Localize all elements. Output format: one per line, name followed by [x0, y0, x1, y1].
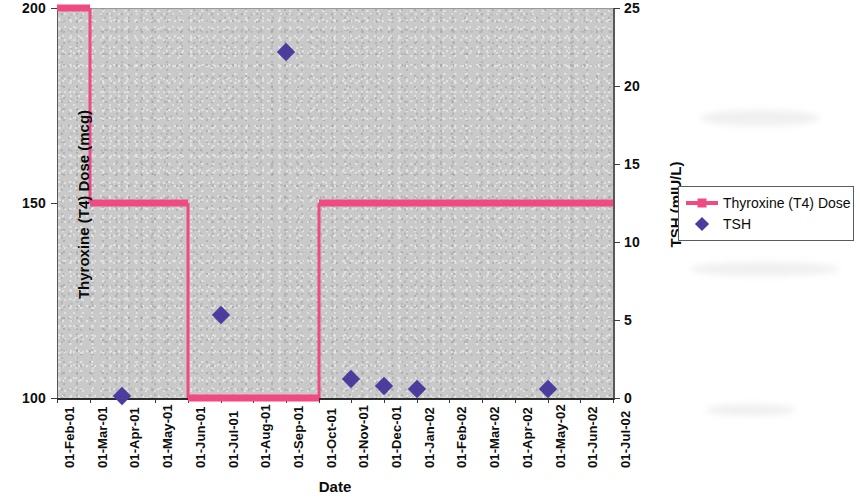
x-tick-label: 01-Jun-02 — [585, 406, 600, 468]
dose-line-segment — [90, 200, 188, 207]
x-tick-label: 01-Sep-01 — [291, 406, 306, 468]
secondary-y-tick-mark — [614, 242, 620, 243]
scan-artifact — [690, 262, 840, 276]
y-axis-title: Thyroxine (T4) Dose (mcg) — [75, 40, 92, 370]
x-tick-label: 01-Jan-02 — [422, 407, 437, 468]
dose-line-segment — [188, 395, 319, 402]
y-tick-label: 100 — [0, 390, 46, 406]
secondary-y-tick-label: 5 — [624, 312, 632, 328]
x-tick-label: 01-Aug-01 — [258, 404, 273, 468]
x-tick-label: 01-Mar-01 — [95, 406, 110, 468]
x-tick-label: 01-Mar-02 — [487, 406, 502, 468]
y-tick-label: 200 — [0, 0, 46, 16]
secondary-y-tick-label: 25 — [624, 0, 640, 16]
dose-line-segment — [57, 5, 90, 12]
legend-line-square-icon — [685, 195, 719, 211]
x-tick-label: 01-Feb-02 — [454, 406, 469, 468]
y-axis-line — [57, 8, 58, 398]
chart-legend: Thyroxine (T4) Dose TSH — [678, 186, 854, 241]
scan-artifact — [706, 404, 796, 416]
x-tick-label: 01-May-01 — [160, 404, 175, 468]
secondary-y-axis-line — [613, 8, 614, 398]
x-tick-label: 01-Jul-02 — [618, 411, 633, 468]
y-tick-label: 150 — [0, 195, 46, 211]
legend-label-thyroxine: Thyroxine (T4) Dose — [723, 195, 851, 211]
secondary-y-tick-label: 0 — [624, 390, 632, 406]
secondary-y-tick-mark — [614, 8, 620, 9]
secondary-y-tick-mark — [614, 86, 620, 87]
dose-line-segment — [186, 203, 189, 398]
x-tick-label: 01-Apr-01 — [127, 407, 142, 468]
scan-artifact — [700, 110, 820, 126]
legend-item-thyroxine: Thyroxine (T4) Dose — [685, 192, 847, 213]
x-tick-label: 01-Oct-01 — [324, 408, 339, 468]
secondary-y-tick-mark — [614, 398, 620, 399]
legend-diamond-icon — [685, 216, 719, 232]
dose-line-segment — [317, 203, 320, 398]
x-axis-title: Date — [57, 478, 613, 495]
dose-line-segment — [319, 200, 613, 207]
x-tick-label: 01-Feb-01 — [62, 406, 77, 468]
secondary-y-tick-label: 10 — [624, 234, 640, 250]
x-axis-line — [57, 398, 614, 400]
secondary-y-tick-label: 15 — [624, 156, 640, 172]
legend-label-tsh: TSH — [723, 216, 751, 232]
chart-figure: 01-Feb-0101-Mar-0101-Apr-0101-May-0101-J… — [0, 0, 860, 502]
secondary-y-tick-label: 20 — [624, 78, 640, 94]
x-tick-label: 01-Nov-01 — [356, 405, 371, 468]
x-tick-label: 01-Apr-02 — [520, 407, 535, 468]
secondary-y-tick-mark — [614, 320, 620, 321]
x-tick-label: 01-Jun-01 — [193, 406, 208, 468]
x-tick-label: 01-May-02 — [553, 404, 568, 468]
legend-item-tsh: TSH — [685, 213, 847, 234]
x-tick-label: 01-Dec-01 — [389, 406, 404, 468]
secondary-y-tick-mark — [614, 164, 620, 165]
x-tick-label: 01-Jul-01 — [226, 411, 241, 468]
